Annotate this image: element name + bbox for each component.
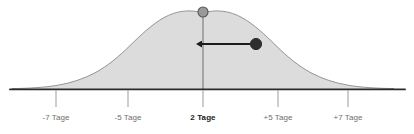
peak-point-marker: [198, 7, 208, 17]
axis-tick-label-minus5: -5 Tage: [114, 113, 142, 122]
axis-tick-label-center: 2 Tage: [190, 113, 216, 122]
target-point-marker: [250, 38, 261, 49]
axis-ticks-group: [56, 90, 348, 107]
bell-curve-figure: -7 Tage -5 Tage 2 Tage +5 Tage +7 Tage: [0, 0, 414, 134]
axis-tick-label-plus7: +7 Tage: [333, 113, 363, 122]
axis-tick-labels-group: -7 Tage -5 Tage 2 Tage +5 Tage +7 Tage: [42, 113, 363, 122]
axis-tick-label-minus7: -7 Tage: [42, 113, 70, 122]
bell-curve-svg: -7 Tage -5 Tage 2 Tage +5 Tage +7 Tage: [0, 0, 414, 134]
axis-tick-label-plus5: +5 Tage: [263, 113, 293, 122]
